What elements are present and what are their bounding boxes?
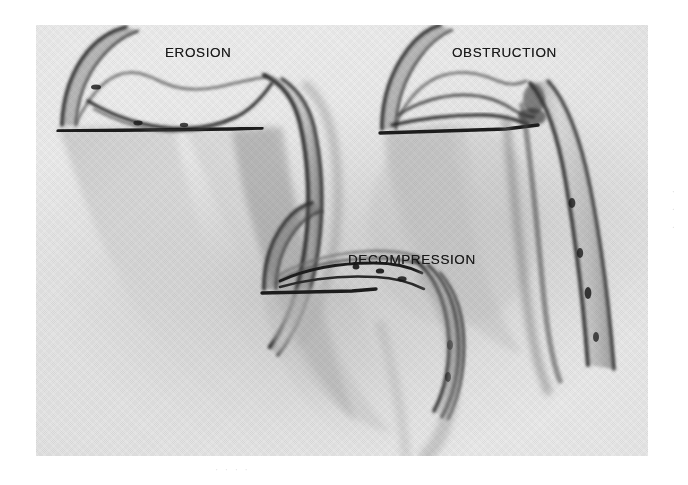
scan-artifact-bottom: · · · · [215, 464, 250, 475]
figure-page: EROSION OBSTRUCTION DECOMPRESSION · · · … [0, 0, 688, 485]
panel-label-obstruction: OBSTRUCTION [452, 45, 557, 60]
scanned-figure-plate [36, 25, 648, 456]
panel-label-erosion: EROSION [165, 45, 231, 60]
illustration-artwork [36, 25, 648, 456]
scan-artifact-right-margin: · · · [668, 190, 679, 235]
obstruction-illustration-icon [368, 25, 614, 395]
panel-label-decompression: DECOMPRESSION [348, 252, 476, 267]
